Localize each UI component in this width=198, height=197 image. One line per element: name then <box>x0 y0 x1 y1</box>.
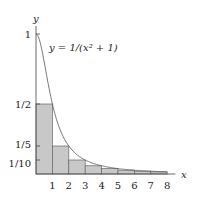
x-axis-label: x <box>181 169 187 180</box>
x-tick-label: 4 <box>98 180 104 191</box>
x-tick-label: 5 <box>115 180 121 191</box>
y-tick-label: 1/5 <box>15 139 31 150</box>
x-tick-label: 3 <box>82 180 88 191</box>
y-tick-label: 1/10 <box>9 158 31 169</box>
y-axis-label: y <box>32 13 39 24</box>
bar <box>36 104 52 174</box>
y-tick-label: 1/2 <box>15 99 31 110</box>
x-tick-label: 8 <box>164 180 170 191</box>
bar <box>52 146 68 174</box>
bar <box>69 160 85 174</box>
x-tick-label: 7 <box>148 180 154 191</box>
chart: xy1234567811/21/51/10y = 1/(x² + 1) <box>0 0 198 197</box>
curve-label: y = 1/(x² + 1) <box>48 42 118 53</box>
bar <box>85 166 101 174</box>
bar <box>102 169 118 174</box>
x-tick-label: 6 <box>131 180 137 191</box>
bar <box>134 171 150 174</box>
bar <box>118 170 134 174</box>
y-tick-label: 1 <box>25 29 31 40</box>
x-tick-label: 1 <box>49 180 55 191</box>
x-tick-label: 2 <box>66 180 72 191</box>
